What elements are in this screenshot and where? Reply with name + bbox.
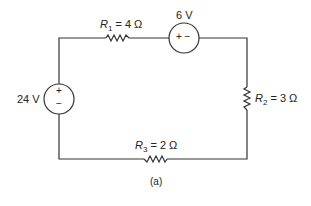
wire-right-bottom xyxy=(167,110,247,159)
source-6v-label: 6 V xyxy=(176,9,193,21)
r2-label: R2 = 3 Ω xyxy=(255,92,297,107)
source-24v-label: 24 V xyxy=(17,93,40,105)
resistor-r2 xyxy=(244,87,250,110)
source-24v-plus: + xyxy=(56,85,62,96)
resistor-r1 xyxy=(106,35,129,41)
wire-top-right xyxy=(199,38,247,87)
wire-top-left xyxy=(59,38,106,84)
resistor-r3 xyxy=(144,156,167,162)
wire-bottom-left xyxy=(59,114,144,159)
source-24v-minus: − xyxy=(56,98,62,109)
r1-label: R1 = 4 Ω xyxy=(100,18,142,33)
figure-caption: (a) xyxy=(150,176,162,187)
source-6v-polarity: + − xyxy=(176,31,190,42)
r3-label: R3 = 2 Ω xyxy=(135,139,177,154)
